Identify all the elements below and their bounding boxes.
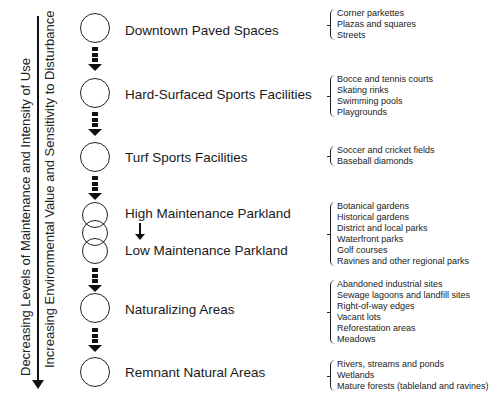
example-item: Mature forests (tableland and ravines) (337, 381, 489, 392)
brace-icon (330, 202, 336, 266)
example-item: Soccer and cricket fields (337, 145, 435, 156)
brace-icon (330, 360, 336, 391)
dashed-arrow-icon (88, 176, 102, 200)
example-item: Skating rinks (337, 85, 433, 96)
stage-label-4-low: Low Maintenance Parkland (125, 243, 288, 258)
example-item: Sewage lagoons and landfill sites (337, 290, 470, 301)
example-item: Playgrounds (337, 107, 433, 118)
examples-group-6: Rivers, streams and ponds Wetlands Matur… (330, 359, 489, 392)
examples-group-2: Bocce and tennis courts Skating rinks Sw… (330, 74, 433, 118)
dashed-arrow-icon (88, 268, 102, 292)
stage-circle-6 (80, 357, 110, 387)
stage-circle-4c (82, 238, 108, 264)
example-item: Botanical gardens (337, 201, 469, 212)
stage-circle-3 (80, 142, 110, 172)
brace-icon (330, 280, 336, 344)
dashed-arrow-icon (88, 47, 102, 71)
example-item: Abandoned industrial sites (337, 279, 470, 290)
examples-group-5: Abandoned industrial sites Sewage lagoon… (330, 279, 470, 345)
example-item: District and local parks (337, 223, 469, 234)
example-item: Rivers, streams and ponds (337, 359, 489, 370)
example-item: Historical gardens (337, 212, 469, 223)
stage-label-3: Turf Sports Facilities (125, 150, 248, 165)
stage-label-2: Hard-Surfaced Sports Facilities (125, 87, 312, 102)
examples-group-4: Botanical gardens Historical gardens Dis… (330, 201, 469, 267)
example-item: Bocce and tennis courts (337, 74, 433, 85)
stage-label-1: Downtown Paved Spaces (125, 23, 279, 38)
example-item: Ravines and other regional parks (337, 256, 469, 267)
example-item: Corner parkettes (337, 8, 416, 19)
main-axis-arrowhead (32, 380, 44, 389)
example-item: Wetlands (337, 370, 489, 381)
brace-icon (330, 9, 336, 40)
stage-label-6: Remnant Natural Areas (125, 365, 265, 380)
stage-circle-1 (80, 13, 110, 43)
stage-label-4-high: High Maintenance Parkland (125, 206, 291, 221)
example-item: Meadows (337, 334, 470, 345)
example-item: Reforestation areas (337, 323, 470, 334)
examples-group-1: Corner parkettes Plazas and squares Stre… (330, 8, 416, 41)
example-item: Right-of-way edges (337, 301, 470, 312)
stage-circle-2 (80, 78, 110, 108)
down-arrow-icon (135, 234, 145, 240)
example-item: Streets (337, 30, 416, 41)
dashed-arrow-icon (88, 328, 102, 352)
example-item: Waterfront parks (337, 234, 469, 245)
main-axis-line (37, 16, 39, 382)
brace-icon (330, 146, 336, 166)
stage-circle-5 (80, 293, 110, 323)
axis-label-secondary: Increasing Environmental Value and Sensi… (42, 11, 57, 368)
brace-icon (330, 75, 336, 117)
example-item: Vacant lots (337, 312, 470, 323)
example-item: Plazas and squares (337, 19, 416, 30)
example-item: Swimming pools (337, 96, 433, 107)
axis-label-primary: Decreasing Levels of Maintenance and Int… (18, 58, 33, 376)
examples-group-3: Soccer and cricket fields Baseball diamo… (330, 145, 435, 167)
example-item: Golf courses (337, 245, 469, 256)
dashed-arrow-icon (88, 112, 102, 136)
example-item: Baseball diamonds (337, 156, 435, 167)
stage-label-5: Naturalizing Areas (125, 302, 235, 317)
